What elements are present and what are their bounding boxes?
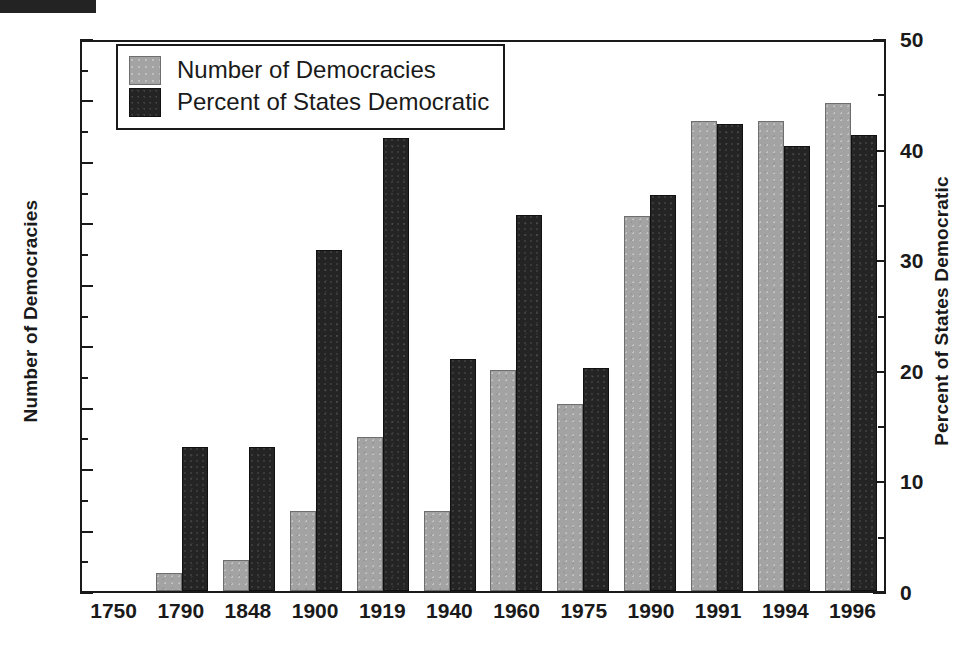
bar-number-of-democracies xyxy=(490,370,516,591)
legend-item-number-of-democracies: Number of Democracies xyxy=(129,56,489,85)
bar-group xyxy=(817,42,884,591)
x-axis-tick-label: 1994 xyxy=(752,600,819,640)
bar-number-of-democracies xyxy=(758,121,784,591)
bar-percent-of-states-democratic xyxy=(383,138,409,591)
bar-percent-of-states-democratic xyxy=(316,250,342,591)
bar-percent-of-states-democratic xyxy=(583,368,609,591)
bar-percent-of-states-democratic xyxy=(516,215,542,591)
chart-figure: 0102030405060708090 01020304050 Number o… xyxy=(0,0,972,645)
bar-group xyxy=(617,42,684,591)
x-axis-tick-label: 1848 xyxy=(214,600,281,640)
bar-number-of-democracies xyxy=(290,511,316,591)
bar-percent-of-states-democratic xyxy=(784,146,810,591)
gray-swatch-icon xyxy=(129,56,161,85)
x-axis-tick-label: 1790 xyxy=(147,600,214,640)
x-axis-tick-label: 1900 xyxy=(282,600,349,640)
right-tick-label: 50 xyxy=(900,29,972,50)
bar-percent-of-states-democratic xyxy=(249,447,275,591)
x-axis-tick-label: 1919 xyxy=(349,600,416,640)
chart-legend: Number of Democracies Percent of States … xyxy=(116,44,505,130)
bar-group xyxy=(750,42,817,591)
left-axis-title: Number of Democracies xyxy=(20,61,42,561)
bar-number-of-democracies xyxy=(557,404,583,591)
bar-group xyxy=(683,42,750,591)
right-tick-label: 0 xyxy=(900,582,972,603)
bar-number-of-democracies xyxy=(825,103,851,591)
bar-percent-of-states-democratic xyxy=(650,195,676,591)
bar-percent-of-states-democratic xyxy=(450,359,476,591)
bar-percent-of-states-democratic xyxy=(182,447,208,591)
x-axis-labels: 1750179018481900191919401960197519901991… xyxy=(80,600,886,640)
x-axis-tick-label: 1990 xyxy=(617,600,684,640)
bar-group xyxy=(550,42,617,591)
bar-percent-of-states-democratic xyxy=(717,124,743,591)
x-axis-tick-label: 1975 xyxy=(550,600,617,640)
bar-number-of-democracies xyxy=(357,437,383,591)
right-axis-title: Percent of States Democratic xyxy=(931,61,953,561)
x-axis-tick-label: 1991 xyxy=(685,600,752,640)
bar-number-of-democracies xyxy=(624,216,650,591)
x-axis-tick-label: 1960 xyxy=(483,600,550,640)
scan-artifact-mark xyxy=(0,0,96,13)
black-swatch-icon xyxy=(129,88,161,117)
bar-number-of-democracies xyxy=(424,511,450,591)
x-axis-tick-label: 1940 xyxy=(416,600,483,640)
bar-number-of-democracies xyxy=(691,121,717,591)
bar-number-of-democracies xyxy=(223,560,249,591)
bar-percent-of-states-democratic xyxy=(851,135,877,591)
bar-number-of-democracies xyxy=(156,573,182,591)
legend-label: Number of Democracies xyxy=(177,57,436,83)
x-axis-tick-label: 1750 xyxy=(80,600,147,640)
legend-label: Percent of States Democratic xyxy=(177,89,489,115)
legend-item-percent-of-states-democratic: Percent of States Democratic xyxy=(129,88,489,117)
x-axis-tick-label: 1996 xyxy=(819,600,886,640)
